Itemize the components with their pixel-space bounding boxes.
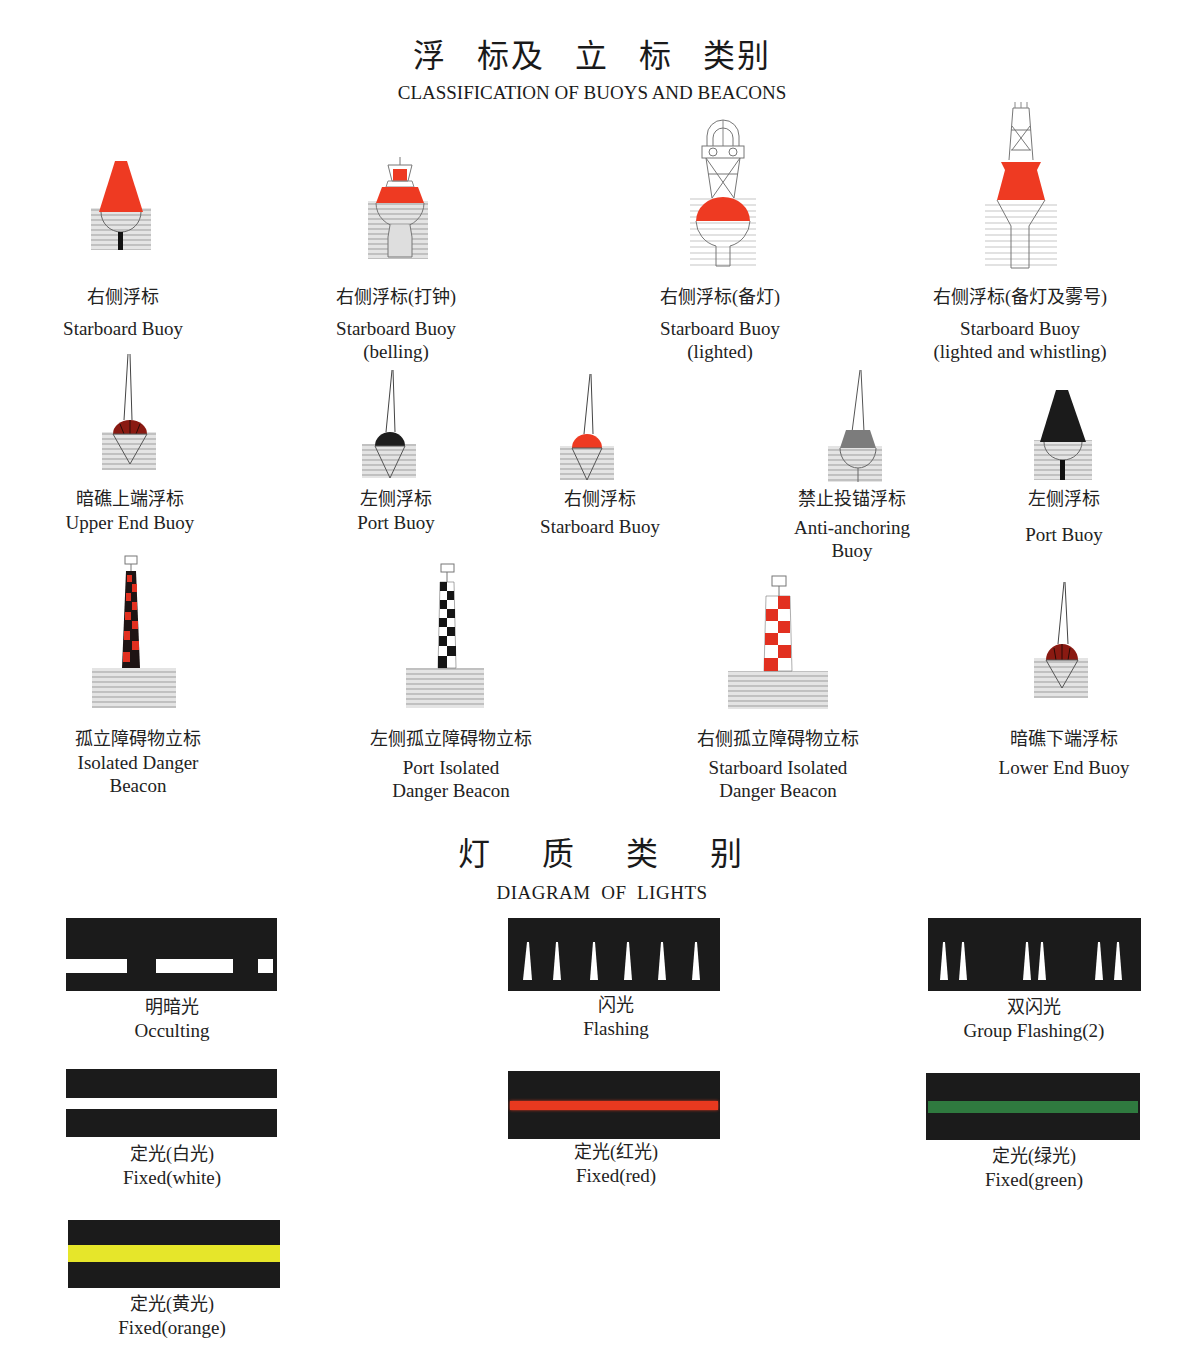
buoy-caption: 暗礁下端浮标Lower End Buoy [984,728,1144,779]
buoy-caption: 暗礁上端浮标Upper End Buoy [50,488,210,534]
title-char: 立 [575,30,609,76]
fixed-green-light-diagram [926,1073,1140,1140]
lights-section-title-en: DIAGRAM OF LIGHTS [0,882,1184,904]
fixed-white-light-diagram [66,1069,277,1137]
figure-caption-clipped [340,1362,860,1372]
light-caption: 定光(红光)Fixed(red) [536,1141,696,1187]
port-spar-buoy-icon [362,368,418,480]
light-caption: 双闪光Group Flashing(2) [934,996,1134,1042]
starboard-bell-buoy-icon [366,157,432,261]
fixed-red-light-diagram [508,1071,720,1139]
starboard-whistle-buoy-icon [985,100,1057,272]
group-flashing-light-diagram [928,918,1141,991]
title-char: 类 [626,828,658,874]
beacon-caption: 孤立障碍物立标Isolated DangerBeacon [58,728,218,797]
isolated-danger-beacon-icon [90,555,178,709]
page-title-cn: 浮 标及 立 标 类别 [0,30,1184,76]
title-char: 标及 [477,30,545,76]
fixed-yellow-light-diagram [68,1220,280,1288]
beacon-caption: 左侧孤立障碍物立标Port IsolatedDanger Beacon [366,728,536,802]
port-conical-buoy-icon [1032,388,1094,484]
anti-anchoring-buoy-icon [826,368,884,486]
title-char: 质 [542,828,574,874]
buoy-caption: 右侧浮标(打钟)Starboard Buoy(belling) [316,286,476,363]
light-caption: 定光(黄光)Fixed(orange) [92,1293,252,1339]
buoy-caption: 右侧浮标(备灯)Starboard Buoy(lighted) [640,286,800,363]
beacon-caption: 右侧孤立障碍物立标Starboard IsolatedDanger Beacon [688,728,868,802]
port-isolated-danger-beacon-icon [404,562,486,710]
light-caption: 明暗光Occulting [92,996,252,1042]
lower-end-buoy-icon [1034,580,1090,700]
title-char: 类别 [703,30,771,76]
title-char: 浮 [413,30,447,76]
title-char: 标 [639,30,673,76]
buoy-caption: 左侧浮标Port Buoy [316,488,476,534]
starboard-lighted-buoy-icon [690,118,756,270]
starboard-isolated-danger-beacon-icon [726,574,830,710]
title-char: 灯 [458,828,490,874]
buoy-caption: 右侧浮标Starboard Buoy [43,286,203,340]
flashing-light-diagram [508,918,720,991]
title-char: 别 [710,828,742,874]
starboard-spar-buoy-icon [560,372,616,482]
buoy-caption: 禁止投锚浮标Anti-anchoringBuoy [772,488,932,562]
buoy-caption: 左侧浮标Port Buoy [984,488,1144,546]
occulting-light-diagram [66,918,277,991]
buoy-caption: 右侧浮标(备灯及雾号)Starboard Buoy(lighted and wh… [920,286,1120,363]
buoy-caption: 右侧浮标Starboard Buoy [520,488,680,538]
light-caption: 定光(白光)Fixed(white) [92,1143,252,1189]
upper-end-buoy-icon [102,352,158,472]
light-caption: 闪光Flashing [536,994,696,1040]
lights-section-title-cn: 灯 质 类 别 [0,828,1184,874]
starboard-buoy-conical-icon [88,158,154,254]
light-caption: 定光(绿光)Fixed(green) [954,1145,1114,1191]
